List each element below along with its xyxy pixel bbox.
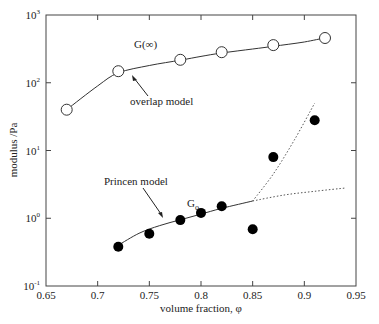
- g0-point: [217, 201, 227, 211]
- plot-frame: [46, 15, 356, 286]
- y-tick-label: 103: [26, 8, 41, 21]
- model-curves: [67, 38, 346, 245]
- princen-model-curve: [118, 201, 252, 245]
- g-infinity-point: [175, 54, 186, 65]
- g0-point: [248, 224, 258, 234]
- chart: 0.650.70.750.80.850.90.95 10-11001011021…: [0, 0, 379, 324]
- overlap-arrow-icon: [134, 78, 148, 96]
- y-tick-label: 100: [26, 211, 41, 224]
- x-axis-ticks: 0.650.70.750.80.850.90.95: [36, 15, 366, 301]
- x-tick-label: 0.9: [297, 289, 311, 301]
- x-tick-label: 0.95: [346, 289, 366, 301]
- x-tick-label: 0.65: [36, 289, 56, 301]
- g0-point: [268, 152, 278, 162]
- princen-model-label: Princen model: [104, 175, 168, 187]
- overlap-model-label: overlap model: [130, 95, 193, 107]
- axes-frame: [46, 15, 356, 286]
- princen-arrow-icon: [143, 188, 161, 214]
- x-tick-label: 0.85: [243, 289, 263, 301]
- g0-point: [175, 215, 185, 225]
- g-infinity-point: [113, 66, 124, 77]
- y-axis-label: modulus /Pa: [7, 123, 19, 178]
- princen-extension-curve: [253, 188, 346, 201]
- g0-point: [310, 115, 320, 125]
- y-axis-ticks: 10-1100101102103: [23, 8, 356, 292]
- g0-point: [113, 242, 123, 252]
- data-points: [61, 33, 330, 252]
- g-infinity-point: [268, 40, 279, 51]
- g-infinity-point: [61, 104, 72, 115]
- y-tick-label: 102: [26, 76, 41, 89]
- overlap-model-curve: [67, 38, 325, 110]
- overlap-arrowhead-icon: [132, 75, 137, 81]
- g0-label: Go: [187, 197, 199, 212]
- x-tick-label: 0.8: [194, 289, 208, 301]
- steep-extension-curve: [253, 103, 315, 201]
- g-infinity-point: [216, 47, 227, 58]
- x-tick-label: 0.7: [91, 289, 105, 301]
- princen-arrowhead-icon: [158, 212, 163, 218]
- x-axis-label: volume fraction, φ: [160, 302, 242, 314]
- g-infinity-label: G(∞): [134, 38, 157, 51]
- y-tick-label: 101: [26, 144, 41, 157]
- g0-label-base: G: [187, 197, 195, 209]
- g0-label-subscript: o: [195, 203, 199, 212]
- g0-point: [144, 229, 154, 239]
- g-infinity-point: [320, 33, 331, 44]
- x-tick-label: 0.75: [140, 289, 160, 301]
